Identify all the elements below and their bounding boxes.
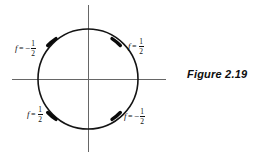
label-variable: f: [124, 112, 127, 121]
label-equals: =: [128, 113, 133, 121]
fraction-denominator: 2: [140, 118, 145, 126]
fraction-denominator: 2: [38, 116, 43, 124]
label-variable: f: [15, 44, 18, 53]
fraction-numerator: 1: [139, 38, 144, 46]
label-lower-left: f = 1 2: [27, 106, 43, 124]
label-sign: −: [25, 44, 30, 53]
fraction-denominator: 2: [139, 48, 144, 56]
label-fraction: 1 2: [139, 38, 144, 56]
label-variable: f: [128, 42, 131, 51]
label-equals: =: [132, 43, 137, 51]
label-fraction: 1 2: [140, 108, 145, 126]
fraction-numerator: 1: [140, 108, 145, 116]
label-upper-right: f = 1 2: [128, 38, 144, 56]
fraction-denominator: 2: [31, 50, 36, 58]
label-sign: −: [134, 112, 139, 121]
label-equals: =: [19, 45, 24, 53]
label-lower-right: f = − 1 2: [124, 108, 145, 126]
fraction-numerator: 1: [38, 106, 43, 114]
label-upper-left: f = − 1 2: [15, 40, 36, 58]
label-equals: =: [31, 111, 36, 119]
figure-container: f = − 1 2 f = 1 2 f = 1 2 f = −: [0, 0, 261, 159]
label-fraction: 1 2: [31, 40, 36, 58]
label-fraction: 1 2: [38, 106, 43, 124]
figure-caption: Figure 2.19: [187, 68, 247, 80]
fraction-numerator: 1: [31, 40, 36, 48]
label-variable: f: [27, 110, 30, 119]
